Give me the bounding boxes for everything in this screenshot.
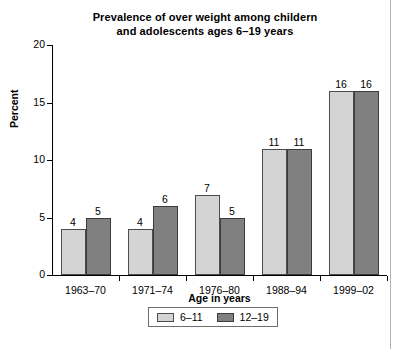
bar-value-label: 5: [95, 206, 101, 217]
bar-value-label: 7: [204, 183, 210, 194]
bar-value-label: 4: [137, 217, 143, 228]
bar: 4: [61, 229, 86, 275]
bar: 6: [153, 206, 178, 275]
x-tick-mark: [119, 276, 120, 281]
bar-value-label: 11: [294, 137, 305, 148]
y-tick-label: 15: [19, 96, 45, 108]
y-tick-mark: [47, 218, 52, 219]
x-tick-mark: [320, 276, 321, 281]
bar-value-label: 16: [335, 79, 347, 90]
x-axis-title: Age in years: [52, 292, 387, 304]
bar-value-label: 11: [269, 137, 280, 148]
y-tick-label: 20: [19, 38, 45, 50]
y-tick-mark: [47, 45, 52, 46]
bar: 16: [329, 91, 354, 275]
legend-label: 12–19: [240, 311, 269, 323]
bar: 11: [262, 149, 287, 276]
legend-item: 12–19: [217, 311, 269, 323]
plot-area: 05101520 45467511111616 1963–701971–7419…: [52, 45, 387, 275]
chart-title-line-1: Prevalence of over weight among childern: [30, 10, 380, 24]
chart-title: Prevalence of over weight among childern…: [30, 10, 380, 38]
y-tick-label: 0: [19, 268, 45, 280]
bar-value-label: 16: [360, 79, 372, 90]
legend-item: 6–11: [157, 311, 203, 323]
bar: 5: [86, 218, 111, 276]
x-tick-mark: [186, 276, 187, 281]
bar: 7: [195, 195, 220, 276]
bar: 11: [287, 149, 312, 276]
x-tick-mark: [253, 276, 254, 281]
bar-value-label: 6: [162, 194, 168, 205]
x-axis-line: [52, 275, 387, 276]
chart-title-line-2: and adolescents ages 6–19 years: [30, 24, 380, 38]
legend-swatch: [157, 313, 174, 322]
bar: 16: [354, 91, 379, 275]
y-tick-mark: [47, 160, 52, 161]
y-axis-line: [52, 45, 53, 276]
y-tick-mark: [47, 275, 52, 276]
bar-value-label: 5: [229, 206, 235, 217]
legend-label: 6–11: [180, 311, 203, 323]
chart-figure: Prevalence of over weight among childern…: [0, 0, 405, 349]
bar: 4: [128, 229, 153, 275]
legend-swatch: [217, 313, 234, 322]
x-tick-mark: [387, 276, 388, 281]
y-tick-label: 5: [19, 211, 45, 223]
page-border-rule: [390, 0, 391, 349]
bar: 5: [220, 218, 245, 276]
bar-value-label: 4: [70, 217, 76, 228]
y-tick-mark: [47, 103, 52, 104]
chart-legend: 6–1112–19: [148, 307, 278, 327]
y-tick-label: 10: [19, 153, 45, 165]
